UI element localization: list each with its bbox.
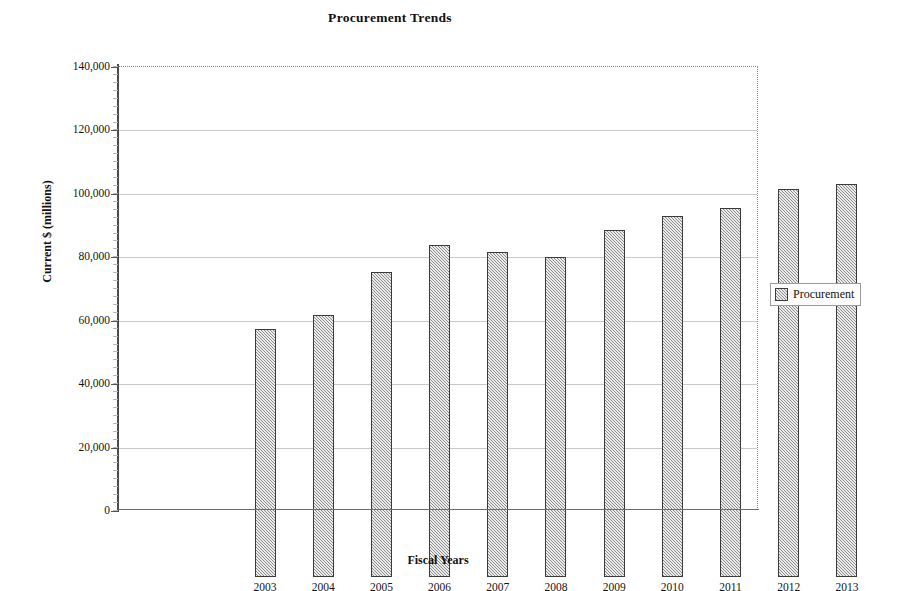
x-axis-tick-label: 2004 [294, 581, 352, 591]
bar-slot [818, 133, 876, 577]
bar-2005[interactable] [371, 272, 392, 577]
bar-2010[interactable] [662, 216, 683, 577]
bar-slot [411, 133, 469, 577]
x-axis-title: Fiscal Years [118, 553, 758, 568]
bar-slot [760, 133, 818, 577]
legend: Procurement [770, 283, 861, 306]
x-axis-tick-label: 2009 [585, 581, 643, 591]
y-axis-tick-label: 140,000 [73, 60, 110, 72]
bar-2013[interactable] [836, 184, 857, 577]
legend-swatch-procurement [775, 288, 788, 301]
plot-area: 2003200420052006200720082009201020112012… [118, 66, 758, 510]
x-axis-tick-label: 2007 [469, 581, 527, 591]
bar-2011[interactable] [720, 208, 741, 577]
bar-slot [236, 133, 294, 577]
y-axis-tick-labels: 020,00040,00060,00080,000100,000120,0001… [52, 66, 110, 510]
x-axis-tick-label: 2005 [352, 581, 410, 591]
x-axis-tick-label: 2013 [818, 581, 876, 591]
x-axis-tick-label: 2008 [527, 581, 585, 591]
bar-2009[interactable] [604, 230, 625, 577]
bar-2007[interactable] [487, 252, 508, 577]
x-axis-line [118, 509, 759, 510]
bar-2006[interactable] [429, 245, 450, 577]
y-axis-tick-label: 20,000 [78, 441, 110, 453]
bar-slot [701, 133, 759, 577]
y-axis-tick-label: 60,000 [78, 314, 110, 326]
bar-2003[interactable] [255, 329, 276, 577]
bar-slot [469, 133, 527, 577]
legend-label-procurement: Procurement [793, 287, 854, 302]
bar-slot [352, 133, 410, 577]
bar-slot [294, 133, 352, 577]
x-axis-tick-label: 2012 [760, 581, 818, 591]
y-axis-tick-label: 100,000 [73, 187, 110, 199]
y-axis-tick-label: 80,000 [78, 250, 110, 262]
bar-slot [585, 133, 643, 577]
y-axis-tick-label: 0 [104, 504, 110, 516]
y-axis-tick-label: 40,000 [78, 377, 110, 389]
y-axis-minor-ticks [111, 66, 118, 510]
x-axis-tick-label: 2010 [643, 581, 701, 591]
bar-slot [643, 133, 701, 577]
x-axis-tick-label: 2011 [701, 581, 759, 591]
x-axis-tick-label: 2006 [411, 581, 469, 591]
bar-2008[interactable] [545, 257, 566, 577]
bar-2012[interactable] [778, 189, 799, 577]
gridline [118, 130, 757, 131]
bar-series-procurement: 2003200420052006200720082009201020112012… [236, 133, 876, 577]
bar-slot [527, 133, 585, 577]
y-axis-title: Current $ (millions) [40, 122, 55, 342]
chart-title: Procurement Trends [0, 10, 780, 26]
x-axis-tick-label: 2003 [236, 581, 294, 591]
y-axis-tick-label: 120,000 [73, 123, 110, 135]
bar-2004[interactable] [313, 315, 334, 577]
bar-chart: Procurement Trends 200320042005200620072… [0, 0, 901, 591]
